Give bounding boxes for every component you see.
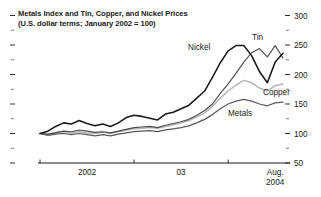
y-tick-label: 200 [294,71,308,80]
series-line-tin [40,46,283,135]
x-tick-label: 2002 [78,168,97,177]
y-tick-label: 250 [294,41,308,50]
series-label-copper: Copper [263,88,290,97]
series-label-metals: Metals [228,109,252,118]
series-label-nickel: Nickel [188,43,210,52]
y-tick-label: 150 [294,100,308,109]
x-tick-label: 2004 [266,178,285,187]
x-tick-label: 03 [177,168,187,177]
y-tick-label: 100 [294,130,308,139]
x-axis-layer: 200203Aug.2004 [38,160,290,188]
chart-container: Metals Index and Tin, Copper, and Nickel… [0,0,321,197]
series-label-tin: Tin [252,33,264,42]
x-tick-label: Aug. [267,168,284,177]
chart-plot: 50100150200250300 NickelTinCopperMetals … [0,0,321,197]
y-tick-label: 50 [294,159,304,168]
series-layer [40,46,283,136]
y-tick-label: 300 [294,12,308,21]
